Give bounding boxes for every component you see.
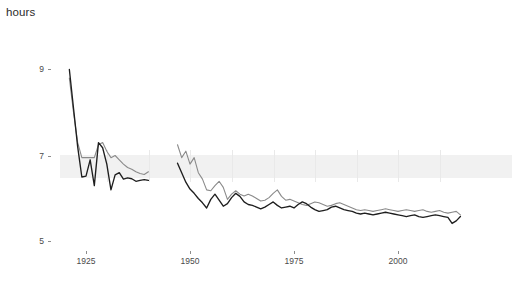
plot-area xyxy=(0,0,512,287)
line-chart: hours 9 7 5 1925 1950 1975 2000 xyxy=(0,0,512,287)
series-group xyxy=(69,70,460,224)
series-gray-line xyxy=(69,78,460,215)
